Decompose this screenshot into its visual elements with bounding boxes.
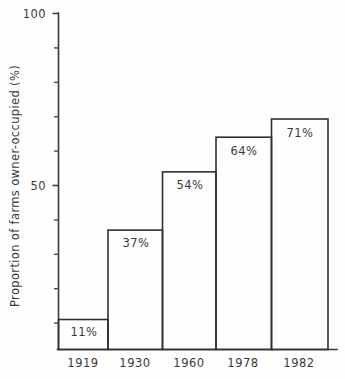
chart-canvas: Proportion of farms owner-occupied (%) 1… [0,0,345,379]
bar-value-1960: 54% [177,178,204,192]
bar-1960 [163,172,217,350]
y-tick-label-50: 50 [31,179,46,193]
bar-value-1982: 71% [287,126,314,140]
y-tick-label-100: 100 [23,7,46,21]
x-label-1960: 1960 [173,356,204,370]
x-label-1982: 1982 [283,356,314,370]
bar-1982 [272,119,329,350]
bar-value-1978: 64% [231,144,258,158]
bar-chart-figure: Proportion of farms owner-occupied (%) 1… [0,0,345,379]
bar-value-1919: 11% [71,325,98,339]
bar-value-1930: 37% [123,236,150,250]
x-label-1978: 1978 [227,356,258,370]
y-axis-title: Proportion of farms owner-occupied (%) [8,65,22,307]
x-label-1930: 1930 [119,356,150,370]
x-label-1919: 1919 [67,356,98,370]
bar-1978 [216,137,272,349]
